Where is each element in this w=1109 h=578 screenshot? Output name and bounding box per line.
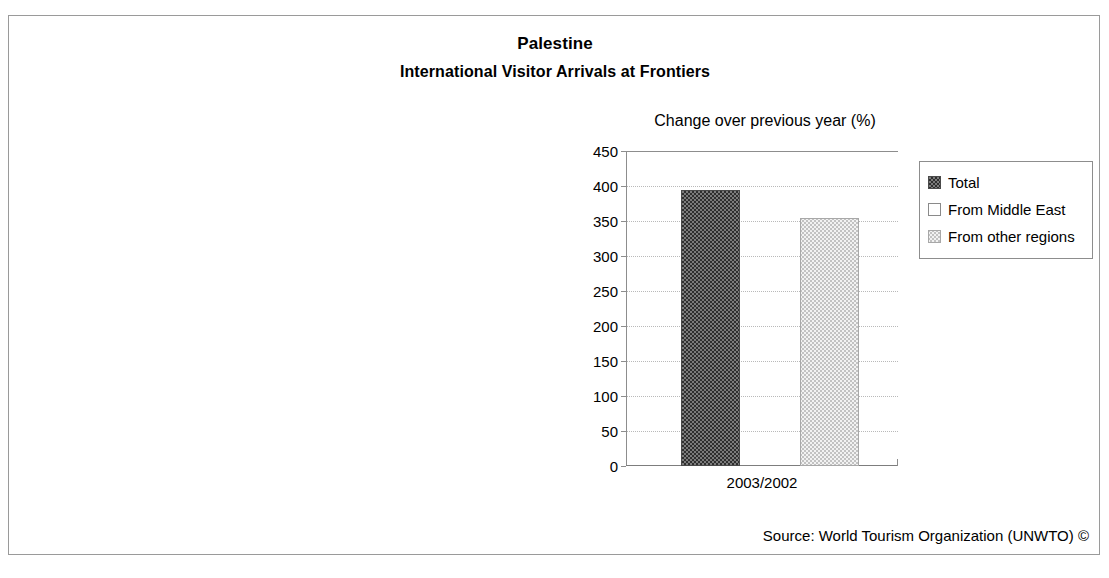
y-tick-label-300: 300 [574,248,618,265]
y-tick-mark-0 [621,466,626,467]
y-axis-line [626,151,627,466]
legend-item-from-middle-east[interactable]: From Middle East [928,196,1084,223]
legend-label-total: Total [948,174,980,191]
bar-from-other-regions[interactable] [800,218,859,467]
y-tick-label-350: 350 [574,213,618,230]
gridline-400 [626,186,898,187]
y-tick-label-450: 450 [574,143,618,160]
legend-swatch-from-other-regions-icon [928,230,941,243]
y-tick-label-400: 400 [574,178,618,195]
legend-label-from-other-regions: From other regions [948,228,1075,245]
x-axis-right-tick [897,459,898,466]
legend-swatch-total-icon [928,176,941,189]
bar-total[interactable] [681,190,740,466]
y-tick-label-150: 150 [574,353,618,370]
gridline-450 [626,151,898,152]
y-tick-label-200: 200 [574,318,618,335]
legend-item-total[interactable]: Total [928,169,1084,196]
y-tick-label-0: 0 [574,458,618,475]
y-tick-label-50: 50 [574,423,618,440]
x-axis-category-label: 2003/2002 [626,474,898,491]
legend-label-from-middle-east: From Middle East [948,201,1066,218]
legend-swatch-from-middle-east-icon [928,203,941,216]
y-tick-label-100: 100 [574,388,618,405]
y-tick-label-250: 250 [574,283,618,300]
chart-legend: Total From Middle East From other region… [919,161,1093,259]
chart-main-title: Palestine [9,34,1101,54]
chart-figure-frame: Palestine International Visitor Arrivals… [8,15,1100,555]
legend-item-from-other-regions[interactable]: From other regions [928,223,1084,250]
chart-sub-title: International Visitor Arrivals at Fronti… [9,63,1101,81]
plot-area: 450400350300250200150100500 [626,151,898,466]
source-attribution: Source: World Tourism Organization (UNWT… [763,527,1089,544]
chart-axis-note: Change over previous year (%) [565,112,965,130]
